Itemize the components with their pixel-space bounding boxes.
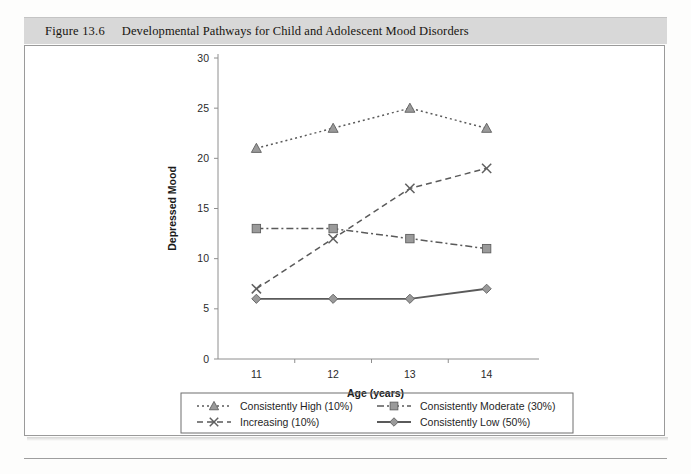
figure-caption-band: Figure 13.6 Developmental Pathways for C… [24, 17, 667, 44]
legend-label: Consistently Low (50%) [420, 416, 530, 428]
series-line [256, 289, 486, 299]
page-bottom-rule [24, 458, 667, 459]
marker-cross [405, 184, 414, 193]
legend-label: Consistently High (10%) [240, 400, 353, 412]
marker-square [390, 402, 398, 410]
x-axis-tick-label: 12 [327, 368, 339, 380]
x-axis-tick-label: 13 [404, 368, 416, 380]
marker-triangle [482, 123, 492, 132]
series-1 [252, 224, 491, 252]
legend-item[interactable]: Consistently Low (50%) [377, 416, 530, 428]
marker-square [406, 234, 414, 242]
figure-number: Figure 13.6 [45, 24, 105, 39]
series-3 [252, 284, 491, 303]
panel-shadow [27, 437, 668, 441]
series-line [256, 229, 486, 249]
y-axis-tick-label: 15 [197, 202, 209, 214]
marker-diamond [482, 284, 491, 293]
y-axis-tick-label: 25 [197, 102, 209, 114]
marker-diamond [390, 418, 398, 426]
y-axis-tick-label: 30 [197, 52, 209, 64]
legend-item[interactable]: Consistently High (10%) [197, 400, 353, 412]
marker-triangle [251, 143, 261, 152]
y-axis-tick-label: 5 [203, 302, 209, 314]
chart-panel: 051015202530Depressed Mood11121314Age (y… [24, 45, 665, 436]
legend-label: Increasing (10%) [240, 416, 319, 428]
figure-caption: Figure 13.6 Developmental Pathways for C… [24, 24, 469, 39]
marker-cross [252, 284, 261, 293]
marker-cross [482, 164, 491, 173]
marker-square [482, 244, 490, 252]
marker-cross [329, 234, 338, 243]
marker-square [329, 224, 337, 232]
marker-diamond [405, 294, 414, 303]
marker-triangle [328, 123, 338, 132]
y-axis-tick-label: 0 [203, 353, 209, 365]
series-line [256, 108, 486, 148]
y-axis-tick-label: 10 [197, 252, 209, 264]
marker-triangle [405, 103, 415, 112]
legend-label: Consistently Moderate (30%) [420, 400, 555, 412]
figure-title: Developmental Pathways for Child and Ado… [122, 24, 469, 39]
line-chart: 051015202530Depressed Mood11121314Age (y… [25, 46, 664, 435]
marker-diamond [329, 294, 338, 303]
marker-diamond [252, 294, 261, 303]
legend-item[interactable]: Consistently Moderate (30%) [377, 400, 555, 412]
figure-page: Figure 13.6 Developmental Pathways for C… [0, 0, 691, 474]
x-axis-tick-label: 14 [481, 368, 493, 380]
y-axis-title: Depressed Mood [166, 166, 178, 251]
legend-item[interactable]: Increasing (10%) [197, 416, 319, 428]
y-axis-tick-label: 20 [197, 152, 209, 164]
x-axis-tick-label: 11 [251, 368, 262, 380]
marker-square [252, 224, 260, 232]
series-0 [251, 103, 491, 152]
